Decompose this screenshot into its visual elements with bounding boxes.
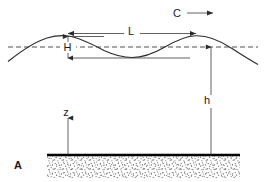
wavelength-label: L	[128, 25, 134, 37]
wave-definition-sketch: L H h z C A	[0, 0, 264, 182]
water-surface-wave	[8, 36, 258, 65]
celerity-label: C	[173, 7, 181, 19]
figure-canvas: L H h z C A	[0, 0, 264, 182]
seabed-sediment	[47, 156, 240, 178]
z-axis-label: z	[63, 106, 69, 118]
wave-height-label: H	[64, 41, 72, 53]
water-depth-label: h	[204, 94, 210, 106]
panel-label: A	[14, 159, 22, 171]
